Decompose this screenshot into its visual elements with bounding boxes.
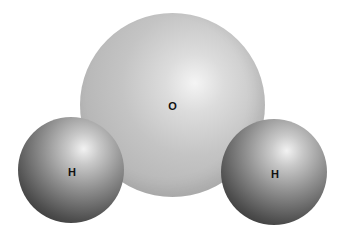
hydrogen-label-right: H	[271, 168, 279, 180]
hydrogen-label-left: H	[68, 166, 76, 178]
oxygen-label: O	[168, 100, 177, 112]
hydrogen-atom-right: H	[221, 119, 327, 225]
hydrogen-atom-left: H	[18, 117, 124, 223]
